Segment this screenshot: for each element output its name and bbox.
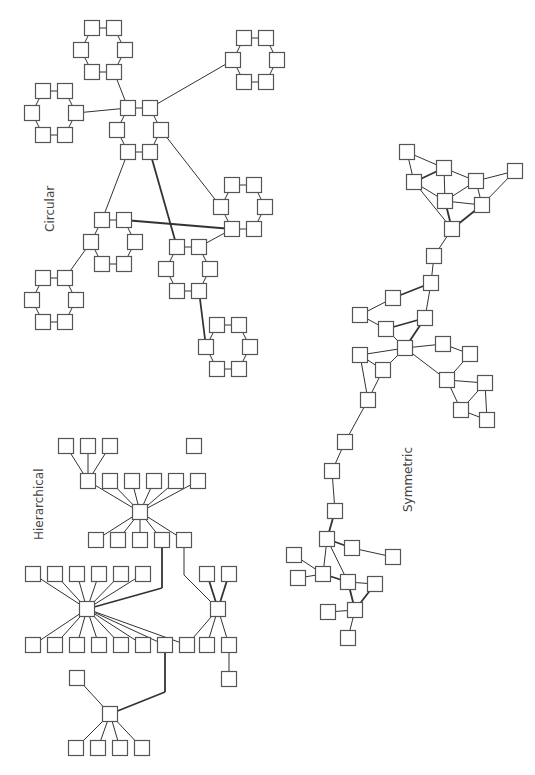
- symmetric-node[interactable]: [463, 347, 478, 362]
- symmetric-node[interactable]: [341, 575, 356, 590]
- circular-node[interactable]: [36, 84, 51, 99]
- symmetric-node[interactable]: [321, 605, 336, 620]
- hierarchical-node[interactable]: [26, 638, 41, 653]
- hierarchical-node[interactable]: [158, 638, 173, 653]
- hierarchical-node[interactable]: [180, 638, 195, 653]
- circular-node[interactable]: [225, 178, 240, 193]
- hierarchical-node[interactable]: [133, 533, 148, 548]
- circular-node[interactable]: [95, 257, 110, 272]
- hierarchical-node[interactable]: [135, 741, 150, 756]
- hierarchical-node[interactable]: [81, 439, 96, 454]
- circular-node[interactable]: [110, 123, 125, 138]
- circular-node[interactable]: [25, 293, 40, 308]
- symmetric-node[interactable]: [437, 161, 452, 176]
- circular-node[interactable]: [107, 65, 122, 80]
- circular-node[interactable]: [154, 123, 169, 138]
- circular-node[interactable]: [232, 362, 247, 377]
- circular-node[interactable]: [199, 340, 214, 355]
- symmetric-node[interactable]: [480, 413, 495, 428]
- circular-node[interactable]: [225, 222, 240, 237]
- hierarchical-node[interactable]: [222, 672, 237, 687]
- symmetric-node[interactable]: [348, 603, 363, 618]
- circular-node[interactable]: [121, 145, 136, 160]
- symmetric-node[interactable]: [469, 174, 484, 189]
- symmetric-node[interactable]: [328, 504, 343, 519]
- symmetric-node[interactable]: [478, 376, 493, 391]
- circular-node[interactable]: [226, 53, 241, 68]
- circular-node[interactable]: [121, 101, 136, 116]
- hierarchical-node[interactable]: [91, 741, 106, 756]
- hierarchical-node[interactable]: [136, 638, 151, 653]
- hierarchical-node[interactable]: [59, 439, 74, 454]
- symmetric-node[interactable]: [436, 337, 451, 352]
- circular-node[interactable]: [237, 75, 252, 90]
- circular-node[interactable]: [25, 106, 40, 121]
- circular-node[interactable]: [36, 128, 51, 143]
- hierarchical-node[interactable]: [155, 533, 170, 548]
- hierarchical-node[interactable]: [222, 638, 237, 653]
- circular-node[interactable]: [128, 235, 143, 250]
- symmetric-node[interactable]: [376, 363, 391, 378]
- symmetric-node[interactable]: [287, 548, 302, 563]
- symmetric-node[interactable]: [368, 577, 383, 592]
- hierarchical-node[interactable]: [133, 505, 148, 520]
- hierarchical-node[interactable]: [103, 707, 118, 722]
- symmetric-node[interactable]: [345, 541, 360, 556]
- circular-node[interactable]: [107, 21, 122, 36]
- hierarchical-node[interactable]: [92, 638, 107, 653]
- circular-node[interactable]: [192, 284, 207, 299]
- circular-node[interactable]: [74, 43, 89, 58]
- symmetric-node[interactable]: [440, 373, 455, 388]
- symmetric-node[interactable]: [418, 311, 433, 326]
- symmetric-node[interactable]: [508, 164, 523, 179]
- hierarchical-node[interactable]: [48, 638, 63, 653]
- circular-node[interactable]: [69, 293, 84, 308]
- circular-node[interactable]: [58, 128, 73, 143]
- hierarchical-node[interactable]: [26, 567, 41, 582]
- symmetric-node[interactable]: [424, 276, 439, 291]
- circular-node[interactable]: [232, 318, 247, 333]
- circular-node[interactable]: [258, 200, 273, 215]
- hierarchical-node[interactable]: [114, 567, 129, 582]
- circular-node[interactable]: [203, 262, 218, 277]
- circular-node[interactable]: [143, 101, 158, 116]
- hierarchical-node[interactable]: [136, 567, 151, 582]
- hierarchical-node[interactable]: [114, 638, 129, 653]
- symmetric-node[interactable]: [398, 341, 413, 356]
- circular-node[interactable]: [237, 31, 252, 46]
- circular-node[interactable]: [117, 213, 132, 228]
- circular-node[interactable]: [69, 106, 84, 121]
- symmetric-node[interactable]: [386, 550, 401, 565]
- symmetric-node[interactable]: [316, 567, 331, 582]
- circular-node[interactable]: [36, 315, 51, 330]
- hierarchical-node[interactable]: [80, 602, 95, 617]
- circular-node[interactable]: [170, 240, 185, 255]
- hierarchical-node[interactable]: [125, 474, 140, 489]
- hierarchical-node[interactable]: [70, 567, 85, 582]
- hierarchical-node[interactable]: [81, 474, 96, 489]
- symmetric-node[interactable]: [386, 291, 401, 306]
- hierarchical-node[interactable]: [92, 567, 107, 582]
- circular-node[interactable]: [214, 200, 229, 215]
- hierarchical-node[interactable]: [103, 439, 118, 454]
- circular-node[interactable]: [85, 21, 100, 36]
- hierarchical-node[interactable]: [177, 533, 192, 548]
- hierarchical-node[interactable]: [70, 671, 85, 686]
- hierarchical-node[interactable]: [169, 474, 184, 489]
- symmetric-node[interactable]: [353, 308, 368, 323]
- circular-node[interactable]: [159, 262, 174, 277]
- circular-node[interactable]: [58, 271, 73, 286]
- symmetric-node[interactable]: [438, 194, 453, 209]
- symmetric-node[interactable]: [379, 322, 394, 337]
- hierarchical-node[interactable]: [222, 567, 237, 582]
- symmetric-node[interactable]: [320, 532, 335, 547]
- circular-node[interactable]: [247, 178, 262, 193]
- symmetric-node[interactable]: [353, 348, 368, 363]
- circular-node[interactable]: [117, 257, 132, 272]
- hierarchical-node[interactable]: [111, 533, 126, 548]
- circular-node[interactable]: [270, 53, 285, 68]
- hierarchical-node[interactable]: [211, 602, 226, 617]
- hierarchical-node[interactable]: [89, 533, 104, 548]
- hierarchical-node[interactable]: [191, 474, 206, 489]
- circular-node[interactable]: [247, 222, 262, 237]
